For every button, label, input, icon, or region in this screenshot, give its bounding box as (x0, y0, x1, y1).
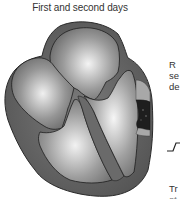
side-text-line-5: st (169, 194, 176, 199)
side-text-line-2: se (169, 70, 179, 81)
side-text-line-1: R (169, 59, 176, 70)
infarct-region (136, 80, 150, 136)
side-text-line-3: de (169, 81, 180, 92)
ecg-trace-icon (166, 140, 181, 155)
side-text-line-4: Tr (169, 183, 178, 194)
diagram-title: First and second days (0, 2, 160, 13)
heart-diagram (0, 20, 160, 199)
